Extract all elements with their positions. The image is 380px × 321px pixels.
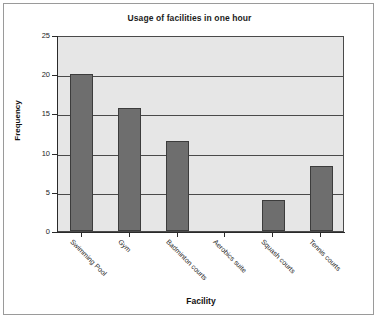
y-tick-label: 5 bbox=[22, 188, 50, 197]
y-tick-label: 25 bbox=[22, 31, 50, 40]
y-tick-mark bbox=[52, 36, 58, 37]
y-tick-mark bbox=[52, 75, 58, 76]
bars-layer bbox=[58, 37, 343, 231]
bar bbox=[310, 166, 333, 231]
x-tick-mark bbox=[81, 233, 82, 237]
bar bbox=[118, 108, 141, 231]
x-axis-title: Facility bbox=[57, 296, 345, 306]
y-tick-mark bbox=[52, 154, 58, 155]
y-tick-label: 10 bbox=[22, 149, 50, 158]
x-tick-label: Badminton courts bbox=[165, 238, 208, 281]
chart-title: Usage of facilities in one hour bbox=[4, 13, 375, 23]
x-tick-label: Squash courts bbox=[260, 238, 297, 275]
bar bbox=[166, 141, 189, 231]
y-axis-title: Frequency bbox=[13, 81, 22, 161]
x-tick-mark bbox=[129, 233, 130, 237]
y-tick-mark bbox=[52, 114, 58, 115]
x-tick-mark bbox=[224, 233, 225, 237]
bar bbox=[70, 74, 93, 231]
y-tick-mark bbox=[52, 193, 58, 194]
x-tick-label: Gym bbox=[117, 238, 132, 253]
x-tick-label: Tennis courts bbox=[308, 238, 342, 272]
y-tick-label: 15 bbox=[22, 109, 50, 118]
figure-frame: Usage of facilities in one hour 05101520… bbox=[3, 3, 374, 315]
y-tick-label: 20 bbox=[22, 70, 50, 79]
x-tick-label: Swimming Pool bbox=[69, 238, 108, 277]
plot-area bbox=[57, 36, 344, 232]
bar bbox=[262, 200, 285, 231]
x-axis-line bbox=[57, 232, 345, 233]
x-tick-mark bbox=[272, 233, 273, 237]
y-tick-label: 0 bbox=[22, 227, 50, 236]
x-tick-label: Aerobics suite bbox=[212, 238, 248, 274]
x-tick-mark bbox=[177, 233, 178, 237]
x-tick-mark bbox=[320, 233, 321, 237]
y-axis-line bbox=[57, 36, 58, 233]
